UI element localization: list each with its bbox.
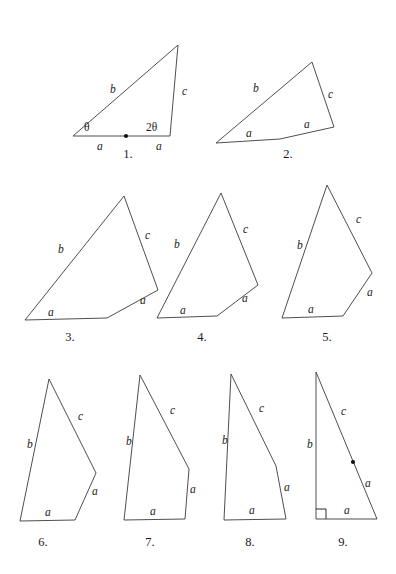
side-label-2-2: a: [246, 127, 252, 139]
figure-sheet: bcaaθ2θ1.bcaa2.bcaa3.bcaa4.bcaa5.bcaa6.b…: [0, 0, 396, 574]
figure-7: bcaa7.: [124, 375, 196, 549]
side-label-9-3: a: [344, 504, 350, 516]
side-label-8-3: a: [284, 481, 290, 493]
side-label-3-1: c: [145, 229, 150, 241]
angle-label-1-5: 2θ: [146, 121, 158, 133]
side-label-4-3: a: [242, 292, 248, 304]
side-label-8-2: a: [249, 504, 255, 516]
side-label-8-0: b: [222, 434, 228, 446]
figures-canvas: bcaaθ2θ1.bcaa2.bcaa3.bcaa4.bcaa5.bcaa6.b…: [0, 0, 396, 574]
side-label-5-0: b: [297, 239, 303, 251]
figure-caption-5: 5.: [322, 330, 331, 344]
side-label-5-3: a: [367, 286, 373, 298]
side-label-6-2: a: [45, 506, 51, 518]
figure-9-outline: [316, 372, 377, 519]
figure-8-outline: [224, 374, 286, 520]
figure-5-outline: [282, 185, 372, 318]
side-label-7-3: a: [190, 483, 196, 495]
side-label-3-0: b: [58, 243, 64, 255]
side-label-1-0: b: [110, 83, 116, 95]
figure-caption-1: 1.: [123, 147, 132, 161]
side-label-1-1: c: [182, 85, 187, 97]
figure-caption-3: 3.: [65, 330, 74, 344]
figure-caption-6: 6.: [38, 535, 47, 549]
figure-2: bcaa2.: [216, 62, 334, 161]
figure-caption-7: 7.: [145, 535, 154, 549]
side-label-6-1: c: [78, 410, 83, 422]
side-label-1-3: a: [156, 140, 162, 152]
midpoint-dot-icon: [351, 460, 355, 464]
angle-label-1-4: θ: [84, 121, 90, 133]
figure-caption-9: 9.: [338, 535, 347, 549]
figure-caption-8: 8.: [245, 535, 254, 549]
figure-6: bcaa6.: [20, 379, 98, 549]
side-label-3-3: a: [140, 294, 146, 306]
figure-3: bcaa3.: [25, 196, 158, 344]
right-angle-icon: [316, 509, 326, 519]
side-label-9-2: a: [365, 477, 371, 489]
figure-1: bcaaθ2θ1.: [73, 45, 187, 161]
figure-3-outline: [25, 196, 158, 320]
side-label-5-2: a: [308, 303, 314, 315]
side-label-5-1: c: [356, 213, 361, 225]
figure-caption-4: 4.: [197, 330, 206, 344]
side-label-2-1: c: [328, 88, 333, 100]
side-label-6-3: a: [92, 485, 98, 497]
figure-caption-2: 2.: [283, 147, 292, 161]
side-label-2-0: b: [253, 82, 259, 94]
side-label-7-2: a: [150, 505, 156, 517]
side-label-3-2: a: [48, 306, 54, 318]
side-label-9-1: c: [341, 405, 346, 417]
side-label-4-2: a: [180, 304, 186, 316]
side-label-2-3: a: [304, 118, 310, 130]
figure-4: bcaa4.: [157, 193, 258, 344]
figure-9: bcaa9.: [307, 372, 377, 549]
side-label-4-0: b: [174, 238, 180, 250]
midpoint-dot-icon: [124, 134, 128, 138]
side-label-7-0: b: [126, 435, 132, 447]
side-label-4-1: c: [243, 223, 248, 235]
figure-8: bcaa8.: [222, 374, 290, 549]
side-label-9-0: b: [307, 438, 313, 450]
figure-6-outline: [20, 379, 96, 521]
figure-7-outline: [124, 375, 189, 520]
side-label-1-2: a: [97, 140, 103, 152]
figure-2-outline: [216, 62, 334, 143]
side-label-6-0: b: [27, 438, 33, 450]
side-label-7-1: c: [170, 404, 175, 416]
figure-5: bcaa5.: [282, 185, 373, 344]
side-label-8-1: c: [259, 402, 264, 414]
